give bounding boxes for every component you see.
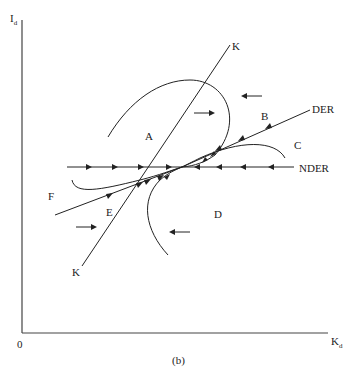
f-label: F — [48, 190, 54, 202]
origin-label: 0 — [17, 338, 23, 350]
k-bottom-label: K — [72, 266, 80, 278]
der-line — [182, 110, 310, 167]
x-axis-label: Kd — [331, 335, 343, 350]
nder-label: NDER — [299, 162, 330, 174]
der-label: DER — [312, 103, 335, 115]
region-d-label: D — [214, 208, 222, 220]
y-axis-label: Id — [10, 12, 18, 27]
figure-caption: (b) — [172, 354, 185, 367]
region-c-label: C — [294, 139, 301, 151]
d-curve — [148, 167, 182, 255]
k-top-label: K — [232, 40, 240, 52]
region-e-label: E — [106, 206, 113, 218]
phase-diagram: Id Kd 0 (b) K K DER NDER F A B C D E — [0, 0, 354, 378]
f-line — [55, 167, 182, 215]
region-a-label: A — [145, 130, 153, 142]
region-b-label: B — [261, 110, 268, 122]
